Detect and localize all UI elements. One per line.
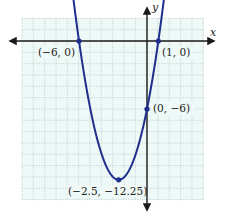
label-vertex: (−2.5, −12.25) bbox=[68, 185, 147, 197]
point-y-intercept bbox=[144, 106, 149, 111]
point-vertex bbox=[116, 177, 121, 182]
label-x-intercept-right: (1, 0) bbox=[162, 46, 190, 58]
point-x-intercept-left bbox=[76, 38, 81, 43]
x-axis-label: x bbox=[210, 26, 217, 39]
y-axis-label: y bbox=[151, 1, 159, 14]
parabola-graph: x y (−6, 0) (1, 0) (0, −6) (−2.5, −12.25… bbox=[0, 0, 227, 214]
label-y-intercept: (0, −6) bbox=[153, 102, 190, 114]
point-x-intercept-right bbox=[156, 38, 161, 43]
label-x-intercept-left: (−6, 0) bbox=[38, 46, 75, 58]
